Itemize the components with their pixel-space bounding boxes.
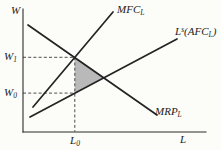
mfc-curve-label: MFCL	[117, 4, 144, 17]
y-axis-label: W	[11, 5, 20, 16]
monopsony-labor-market-diagram: W L MFCL Ls(AFCL) MRPL W1 W0 L0	[0, 0, 221, 150]
mrp-curve	[28, 25, 157, 115]
mrp-label-sub: L	[178, 110, 182, 119]
y-axis-label-text: W	[11, 4, 20, 16]
mfc-curve	[33, 12, 113, 107]
w1-label-sub: 1	[13, 55, 17, 64]
w0-label-main: W	[4, 86, 13, 98]
mrp-label-main: MRP	[155, 105, 178, 117]
curves	[28, 12, 177, 117]
w1-label-main: W	[4, 50, 13, 62]
w0-marker-label: W0	[4, 87, 17, 100]
supply-label-end: )	[213, 25, 217, 37]
dashed-guides	[23, 57, 75, 131]
supply-label-mid: (AFC	[184, 25, 208, 37]
l0-label-sub: 0	[76, 139, 80, 148]
mrp-curve-label: MRPL	[155, 106, 182, 119]
x-axis-label-text: L	[180, 133, 186, 145]
x-axis-label: L	[180, 134, 186, 145]
diagram-canvas	[0, 0, 221, 150]
w1-marker-label: W1	[4, 51, 17, 64]
mfc-label-sub: L	[140, 8, 144, 17]
labor-supply-curve-label: Ls(AFCL)	[175, 26, 216, 39]
l0-marker-label: L0	[70, 135, 80, 148]
w0-label-sub: 0	[13, 91, 17, 100]
mfc-label-main: MFC	[117, 3, 140, 15]
